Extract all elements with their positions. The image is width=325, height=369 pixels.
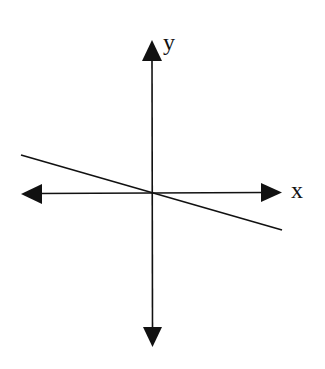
y-axis-up-arrow-icon [142,40,162,61]
diagram-svg [0,0,325,369]
x-axis-right-arrow-icon [261,183,282,202]
x-axis-left-arrow-icon [21,184,42,204]
y-axis-down-arrow-icon [143,327,162,347]
y-axis [152,58,153,330]
coordinate-plane-diagram: y x [0,0,325,369]
y-axis-label: y [163,30,175,54]
x-axis-label: x [291,178,303,202]
